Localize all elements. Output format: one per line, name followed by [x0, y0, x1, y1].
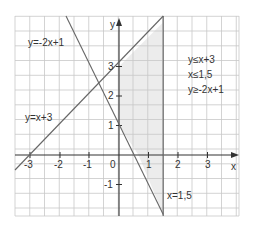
line-label-x-1-5: x=1,5: [167, 190, 192, 201]
y-axis-arrow-icon: [116, 18, 122, 26]
inequality-2: x≤1,5: [188, 69, 213, 80]
feasible-region: [119, 22, 163, 155]
y-tick-label: 3: [108, 61, 114, 72]
x-tick-label: 0: [110, 159, 116, 170]
inequality-1: y≤x+3: [188, 54, 215, 65]
line-label-neg2x-plus1: y=-2x+1: [28, 37, 65, 48]
x-tick-label: 1: [146, 159, 152, 170]
x-tick-label: -1: [83, 159, 92, 170]
x-tick-label: 2: [175, 159, 181, 170]
x-tick-label: -2: [54, 159, 63, 170]
x-tick-label: 3: [205, 159, 211, 170]
line-label-x-plus3: y=x+3: [25, 112, 53, 123]
y-tick-label: -1: [104, 179, 113, 190]
coordinate-graph: -3 -2 -1 0 1 2 3 3 2 1 -1 x y y=-2x+1 y=…: [0, 0, 253, 230]
y-tick-label: 2: [108, 90, 114, 101]
x-axis-label: x: [231, 161, 236, 172]
inequality-3: y≥-2x+1: [188, 84, 224, 95]
x-tick-label: -3: [24, 159, 33, 170]
y-tick-label: 1: [108, 120, 114, 131]
x-axis-arrow-icon: [231, 152, 239, 158]
y-axis-label: y: [110, 19, 115, 30]
